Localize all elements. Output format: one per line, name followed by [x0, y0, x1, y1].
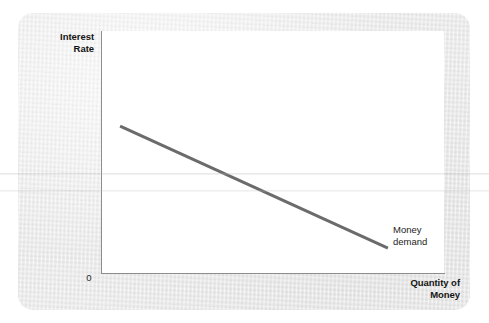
money-demand-curve-label: Money demand	[393, 224, 453, 248]
x-axis-title: Quantity of Money	[348, 277, 460, 300]
y-axis-title: Interest Rate	[28, 31, 94, 54]
money-demand-figure: Interest Rate Quantity of Money 0 Money …	[0, 0, 489, 323]
x-axis-line	[101, 273, 445, 274]
y-axis-line	[101, 31, 102, 274]
origin-label: 0	[82, 272, 96, 284]
